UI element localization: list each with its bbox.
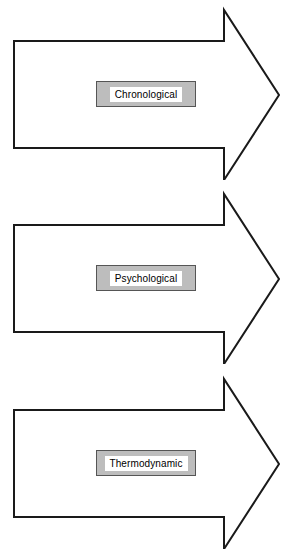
arrow-label-text: Chronological [110, 87, 182, 102]
arrow-diagram: Chronological Psychological Thermodynami… [0, 0, 294, 557]
arrow-label-box[interactable]: Psychological [96, 265, 196, 291]
arrow-label-box[interactable]: Chronological [96, 81, 196, 107]
arrow-block-chronological[interactable]: Chronological [0, 0, 294, 180]
arrow-block-thermodynamic[interactable]: Thermodynamic [0, 369, 294, 549]
arrow-block-psychological[interactable]: Psychological [0, 184, 294, 364]
arrow-label-text: Thermodynamic [105, 456, 188, 471]
arrow-label-text: Psychological [110, 271, 182, 286]
arrow-label-box[interactable]: Thermodynamic [96, 450, 196, 476]
